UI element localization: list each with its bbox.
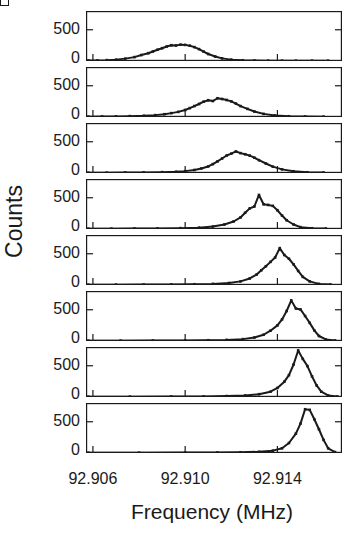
- data-point-marker: [170, 44, 173, 47]
- data-point-marker: [193, 283, 196, 285]
- data-point-marker: [119, 339, 122, 341]
- spectrum-panel-1: [86, 11, 342, 61]
- data-point-marker: [175, 170, 178, 173]
- data-point-marker: [299, 422, 302, 425]
- data-point-marker: [193, 46, 196, 49]
- data-point-marker: [177, 111, 180, 114]
- data-point-marker: [292, 363, 295, 366]
- y-tick-label-0: 0: [32, 329, 80, 347]
- data-point-marker: [274, 114, 277, 117]
- data-point-marker: [272, 449, 275, 452]
- data-point-marker: [272, 205, 275, 208]
- data-point-marker: [223, 223, 226, 226]
- data-point-marker: [295, 432, 298, 435]
- data-point-marker: [87, 171, 90, 173]
- data-point-marker: [244, 394, 247, 397]
- data-point-marker: [175, 44, 178, 47]
- data-point-marker: [313, 329, 316, 332]
- data-point-marker: [301, 276, 304, 279]
- data-point-marker: [295, 59, 298, 61]
- data-point-marker: [147, 52, 150, 55]
- plot-frame: [87, 12, 342, 61]
- data-point-marker: [267, 59, 270, 61]
- data-point-marker: [228, 282, 231, 285]
- data-point-marker: [152, 50, 155, 53]
- data-point-marker: [225, 154, 228, 157]
- data-point-marker: [334, 451, 337, 453]
- data-point-marker: [262, 203, 265, 206]
- data-point-marker: [265, 265, 268, 268]
- data-point-marker: [308, 409, 311, 412]
- data-point-marker: [216, 160, 219, 163]
- data-point-marker: [288, 442, 291, 445]
- data-point-marker: [318, 428, 321, 431]
- data-point-marker: [165, 45, 168, 48]
- data-point-marker: [297, 270, 300, 273]
- data-point-marker: [315, 384, 318, 387]
- data-point-marker: [299, 226, 302, 229]
- data-point-marker: [133, 227, 136, 229]
- data-point-marker: [325, 227, 328, 229]
- data-point-marker: [105, 59, 108, 61]
- data-point-marker: [198, 48, 201, 51]
- data-point-marker: [244, 153, 247, 156]
- spectrum-panel-8: [86, 403, 342, 453]
- data-point-marker: [214, 55, 217, 58]
- data-point-marker: [87, 115, 90, 117]
- y-tick-label-0: 0: [32, 105, 80, 123]
- y-tick-label-500: 500: [32, 356, 80, 374]
- data-point-marker: [87, 339, 90, 341]
- data-point-marker: [221, 157, 224, 160]
- x-axis-title: Frequency (MHz): [76, 500, 348, 524]
- data-point-marker: [329, 283, 332, 285]
- spectrum-panel-3: [86, 123, 342, 173]
- data-point-marker: [142, 283, 145, 285]
- data-point-marker: [110, 227, 113, 229]
- data-point-marker: [242, 59, 245, 61]
- data-point-marker: [207, 339, 210, 341]
- data-point-marker: [304, 408, 307, 411]
- data-point-marker: [283, 254, 286, 257]
- data-point-marker: [207, 165, 210, 168]
- data-point-marker: [269, 329, 272, 332]
- data-point-marker: [230, 152, 233, 155]
- data-point-marker: [124, 57, 127, 60]
- data-point-marker: [184, 451, 187, 453]
- data-point-marker: [255, 273, 258, 276]
- data-point-marker: [311, 59, 314, 61]
- y-tick-label-500: 500: [32, 132, 80, 150]
- data-point-marker: [216, 97, 219, 100]
- data-point-marker: [283, 380, 286, 383]
- data-point-marker: [87, 227, 90, 229]
- data-point-marker: [235, 102, 238, 105]
- data-point-marker: [318, 283, 321, 285]
- data-point-marker: [161, 47, 164, 50]
- y-tick-label-0: 0: [32, 217, 80, 235]
- data-point-marker: [262, 333, 265, 336]
- data-point-marker: [276, 209, 279, 212]
- data-point-marker: [202, 395, 205, 397]
- data-point-marker: [170, 283, 173, 285]
- data-point-marker: [115, 115, 118, 117]
- y-tick-label-500: 500: [32, 20, 80, 38]
- data-point-marker: [184, 109, 187, 112]
- data-point-marker: [285, 310, 288, 313]
- data-point-marker: [235, 150, 238, 153]
- data-point-marker: [170, 395, 173, 397]
- data-point-marker: [188, 107, 191, 110]
- data-point-marker: [244, 211, 247, 214]
- data-point-marker: [295, 307, 298, 310]
- data-point-marker: [184, 170, 187, 173]
- data-point-marker: [212, 283, 215, 285]
- spectrum-panel-2: [86, 67, 342, 117]
- data-point-marker: [327, 59, 330, 61]
- data-point-marker: [304, 115, 307, 117]
- data-point-marker: [138, 451, 141, 453]
- data-point-marker: [239, 105, 242, 108]
- data-point-marker: [239, 152, 242, 155]
- data-point-marker: [278, 247, 281, 250]
- data-point-marker: [276, 387, 279, 390]
- data-point-marker: [115, 58, 118, 61]
- spectrum-panel-5: [86, 235, 342, 285]
- y-tick-label-500: 500: [32, 188, 80, 206]
